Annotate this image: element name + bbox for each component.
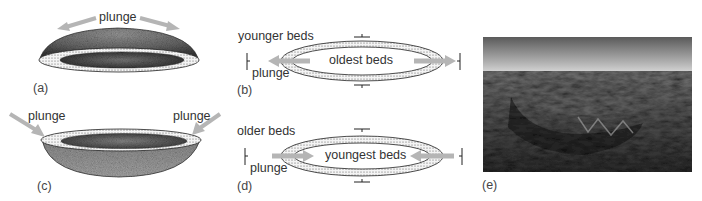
panel-c-basin bbox=[10, 114, 220, 177]
oldest-beds-label: oldest beds bbox=[329, 54, 393, 67]
plunge-arrow-left-icon bbox=[57, 18, 96, 31]
plunge-arrow-right-icon bbox=[140, 18, 180, 31]
plunge-label: plunge bbox=[252, 67, 290, 80]
younger-beds-label: younger beds bbox=[238, 30, 314, 43]
youngest-beds-label: youngest beds bbox=[325, 149, 406, 162]
plunge-label-left: plunge bbox=[28, 110, 66, 123]
panel-label-c: (c) bbox=[37, 180, 52, 193]
plunge-label-right: plunge bbox=[173, 110, 211, 123]
older-beds-label: older beds bbox=[237, 125, 295, 138]
plunge-label: plunge bbox=[250, 162, 288, 175]
panel-label-a: (a) bbox=[33, 82, 48, 95]
aerial-photo bbox=[483, 37, 692, 172]
plunge-label: plunge bbox=[99, 11, 137, 24]
panel-label-d: (d) bbox=[237, 180, 252, 193]
panel-a-dome bbox=[39, 18, 199, 72]
panel-label-e: (e) bbox=[482, 179, 497, 192]
panel-label-b: (b) bbox=[237, 84, 252, 97]
